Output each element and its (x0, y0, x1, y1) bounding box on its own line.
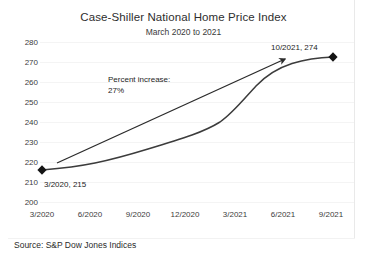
end-point-label: 10/2021, 274 (271, 43, 318, 52)
gridlines (40, 42, 354, 202)
chart-card: Case-Shiller National Home Price Index M… (0, 0, 367, 261)
percent-increase-arrow (57, 59, 285, 163)
percent-increase-note: Percent increase: 27% (108, 74, 170, 96)
start-point-label: 3/2020, 215 (44, 180, 86, 189)
source-note: Source: S&P Dow Jones Indices (14, 240, 136, 250)
end-point-marker (328, 52, 337, 62)
index-series-line (42, 57, 333, 170)
percent-increase-note-line2: 27% (108, 85, 170, 96)
plot-area (0, 0, 367, 261)
start-point-marker (37, 165, 46, 175)
percent-increase-note-line1: Percent increase: (108, 74, 170, 85)
